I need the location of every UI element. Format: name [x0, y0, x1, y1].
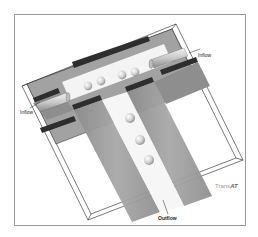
- t-junction-diagram: [0, 0, 258, 237]
- outflow-channel: [74, 82, 212, 222]
- droplet: [118, 71, 127, 80]
- outflow-label: Outflow: [158, 216, 177, 221]
- brand-suffix: AT: [230, 183, 238, 189]
- droplet: [84, 82, 92, 90]
- droplet: [131, 68, 140, 77]
- droplet: [135, 135, 145, 145]
- inflow-right-label: Inflow: [198, 53, 211, 58]
- inflow-left-label: Inflow: [20, 110, 33, 115]
- droplet: [97, 77, 106, 86]
- droplet: [144, 155, 154, 165]
- brand-prefix: Trans: [215, 183, 230, 189]
- brand-watermark: TransAT: [215, 183, 238, 189]
- droplet: [125, 113, 135, 123]
